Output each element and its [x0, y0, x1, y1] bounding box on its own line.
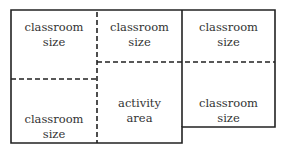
room-label-bottom-right: classroom size [182, 96, 275, 126]
room-label-activity-area: activity area [97, 96, 182, 126]
room-label-line2: area [97, 111, 182, 126]
room-label-line1: activity [97, 96, 182, 111]
room-label-line1: classroom [182, 96, 275, 111]
room-label-bottom-left: classroom size [11, 112, 97, 142]
room-label-line2: size [11, 35, 97, 50]
room-label-top-left: classroom size [11, 20, 97, 50]
room-label-line2: size [182, 111, 275, 126]
room-label-line1: classroom [11, 112, 97, 127]
room-label-top-right: classroom size [182, 20, 275, 50]
room-label-line1: classroom [97, 20, 182, 35]
room-label-line2: size [182, 35, 275, 50]
room-label-line2: size [11, 127, 97, 142]
room-label-top-middle: classroom size [97, 20, 182, 50]
room-label-line2: size [97, 35, 182, 50]
room-label-line1: classroom [182, 20, 275, 35]
room-label-line1: classroom [11, 20, 97, 35]
